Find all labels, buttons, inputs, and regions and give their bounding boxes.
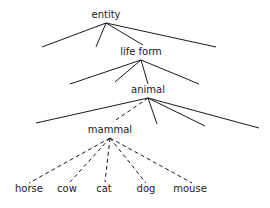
tree-edge [141,60,148,84]
node-life-form: life form [120,46,162,57]
node-mammal: mammal [88,124,132,135]
taxonomy-tree: entity life form animal mammal horse cow… [0,0,270,208]
tree-edge [106,23,143,45]
tree-edge [110,138,146,183]
node-entity: entity [91,9,120,20]
node-mouse: mouse [173,183,207,194]
tree-edge [110,138,192,183]
node-cow: cow [57,183,77,194]
tree-edge [42,23,106,47]
node-cat: cat [96,183,112,194]
tree-edge [148,98,259,128]
tree-edge [70,138,110,182]
node-animal: animal [131,84,165,95]
tree-edge [115,60,141,82]
tree-edge [70,60,141,84]
tree-edge [29,138,110,183]
node-dog: dog [137,183,156,194]
tree-edge [36,98,148,123]
tree-nodes: entity life form animal mammal horse cow… [15,9,207,194]
node-horse: horse [15,183,43,194]
tree-edge [105,138,110,182]
tree-edge [106,23,216,47]
tree-edge [141,60,199,84]
